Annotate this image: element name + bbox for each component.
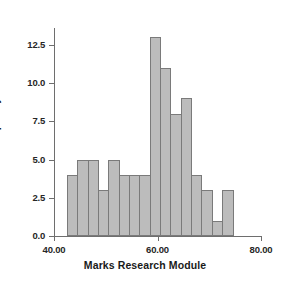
x-axis-title: Marks Research Module: [0, 259, 290, 271]
histogram-bars: [0, 0, 290, 285]
histogram-bar: [222, 190, 233, 236]
histogram-figure: 0.02.55.07.510.012.5 40.0060.0080.00 Fre…: [0, 0, 290, 285]
y-axis-title: Frequency: [0, 98, 1, 149]
